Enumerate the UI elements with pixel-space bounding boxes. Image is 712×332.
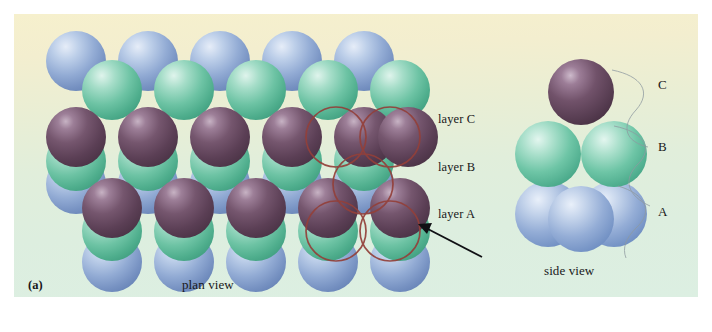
- side-label-b: B: [658, 139, 667, 155]
- side-view-caption: side view: [544, 263, 594, 279]
- plan-label-layer-c: layer C: [438, 112, 475, 127]
- panel-label: (a): [28, 278, 43, 293]
- illustration-canvas: layer C layer B layer A C B A plan view …: [14, 14, 698, 297]
- plan-label-layer-b: layer B: [438, 160, 475, 175]
- side-view-spheres: [515, 59, 647, 252]
- plan-view-caption: plan view: [182, 277, 234, 293]
- figure-root: layer C layer B layer A C B A plan view …: [0, 0, 712, 332]
- side-label-a: A: [658, 204, 668, 220]
- plan-label-layer-a: layer A: [438, 207, 475, 222]
- side-label-c: C: [658, 77, 667, 93]
- plan-view-spheres: [14, 14, 698, 297]
